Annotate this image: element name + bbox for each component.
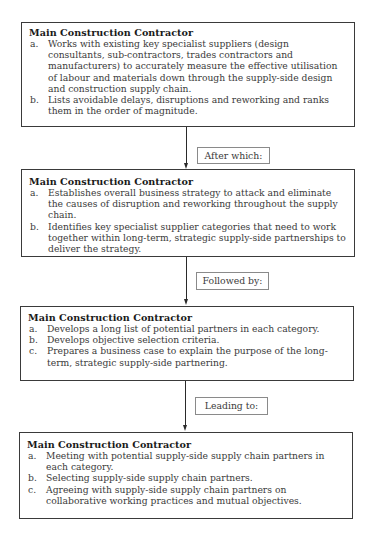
list-item: c. Prepares a business case to explain t… — [28, 345, 345, 367]
step-item-list: a. Establishes overall business strategy… — [29, 187, 346, 254]
item-text: Establishes overall business strategy to… — [48, 187, 346, 221]
list-item: a. Works with existing key specialist su… — [29, 38, 346, 94]
list-item: b. Develops objective selection criteria… — [28, 334, 345, 345]
list-item: c. Agreeing with supply-side supply chai… — [27, 484, 344, 506]
step-box-4: Main Construction Contractor a. Meeting … — [19, 432, 353, 519]
list-item: b. Selecting supply-side supply chain pa… — [27, 472, 344, 483]
list-item: b. Lists avoidable delays, disruptions a… — [29, 94, 346, 116]
item-marker: b. — [29, 94, 48, 116]
connector-line-2 — [186, 257, 187, 300]
step-item-list: a. Works with existing key specialist su… — [29, 38, 346, 116]
item-marker: a. — [29, 187, 48, 221]
item-text: Develops a long list of potential partne… — [47, 323, 345, 334]
item-marker: c. — [28, 345, 47, 367]
step-item-list: a. Develops a long list of potential par… — [28, 323, 345, 368]
step-title: Main Construction Contractor — [28, 312, 345, 323]
item-text: Agreeing with supply-side supply chain p… — [46, 484, 344, 506]
item-marker: c. — [27, 484, 46, 506]
step-title: Main Construction Contractor — [29, 27, 346, 38]
step-box-1: Main Construction Contractor a. Works wi… — [21, 22, 355, 127]
item-marker: a. — [27, 450, 46, 472]
item-marker: b. — [27, 472, 46, 483]
step-title: Main Construction Contractor — [27, 439, 344, 450]
item-text: Meeting with potential supply-side suppl… — [46, 450, 344, 472]
item-text: Develops objective selection criteria. — [47, 334, 345, 345]
connector-label-3: Leading to: — [195, 397, 268, 415]
connector-line-1 — [186, 127, 187, 164]
item-text: Prepares a business case to explain the … — [47, 345, 345, 367]
list-item: a. Develops a long list of potential par… — [28, 323, 345, 334]
item-marker: a. — [28, 323, 47, 334]
list-item: a. Establishes overall business strategy… — [29, 187, 346, 221]
item-text: Lists avoidable delays, disruptions and … — [48, 94, 346, 116]
list-item: b. Identifies key specialist supplier ca… — [29, 221, 346, 255]
connector-label-1: After which: — [197, 147, 270, 164]
arrow-down-icon — [184, 299, 188, 305]
step-item-list: a. Meeting with potential supply-side su… — [27, 450, 344, 506]
item-text: Identifies key specialist supplier categ… — [48, 221, 346, 255]
step-box-2: Main Construction Contractor a. Establis… — [21, 169, 355, 257]
item-text: Selecting supply-side supply chain partn… — [46, 472, 344, 483]
connector-label-2: Followed by: — [196, 272, 269, 290]
list-item: a. Meeting with potential supply-side su… — [27, 450, 344, 472]
step-title: Main Construction Contractor — [29, 176, 346, 187]
arrow-down-icon — [183, 425, 187, 431]
item-marker: b. — [29, 221, 48, 255]
item-marker: a. — [29, 38, 48, 94]
item-text: Works with existing key specialist suppl… — [48, 38, 346, 94]
connector-line-3 — [185, 381, 186, 426]
item-marker: b. — [28, 334, 47, 345]
step-box-3: Main Construction Contractor a. Develops… — [20, 306, 354, 381]
